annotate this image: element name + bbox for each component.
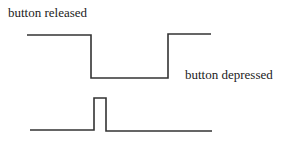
pulse-signal-waveform [30,98,212,131]
button-signal-waveform [27,34,211,78]
waveform-canvas [0,0,288,141]
